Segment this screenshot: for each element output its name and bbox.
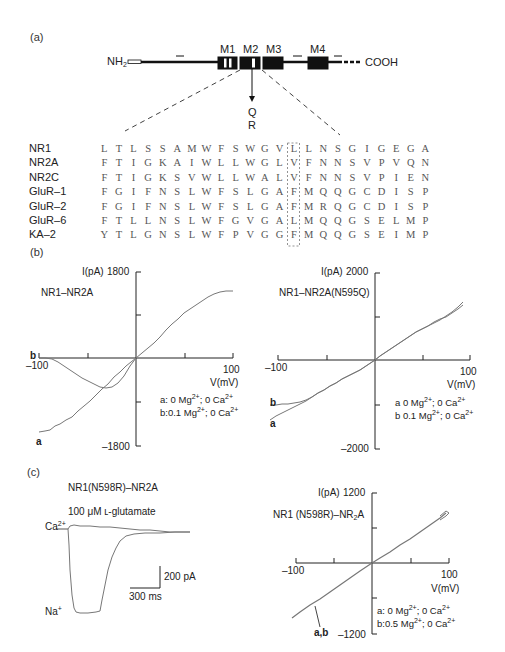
residue: G — [228, 214, 243, 228]
sequence-row: FGIFNSLWFSLGAFMRQGCDISP — [97, 200, 433, 214]
seq-name: GluR–2 — [29, 199, 66, 213]
residue: E — [403, 171, 418, 185]
residue: Q — [316, 228, 331, 242]
residue: V — [185, 171, 200, 185]
residue: G — [258, 142, 273, 156]
residue: G — [345, 228, 360, 242]
legend-b: b:0.1 Mg2+; 0 Ca2+ — [160, 406, 238, 418]
residue: G — [112, 200, 127, 214]
residue: S — [170, 200, 185, 214]
residue: N — [331, 156, 346, 170]
residue: G — [403, 142, 418, 156]
residue: S — [345, 156, 360, 170]
agonist-label: 100 μM ʟ-glutamate — [68, 506, 156, 517]
x-axis-label: V(mV) — [210, 377, 238, 388]
x-min-label: –100 — [282, 565, 304, 576]
residue: L — [214, 156, 229, 170]
iv-plot-nr1-nr2a-n595q — [270, 273, 470, 449]
residue: G — [258, 214, 273, 228]
site-label-r: R — [248, 119, 256, 131]
residue: S — [170, 228, 185, 242]
residue: C — [360, 185, 375, 199]
sequence-row: FTIGKSVWLLWALVFNNSVPIEN — [97, 171, 433, 185]
residue: A — [170, 142, 185, 156]
residue: W — [243, 171, 258, 185]
y-max-label: 1800 — [107, 266, 129, 277]
current-trace — [56, 525, 190, 613]
residue: L — [126, 228, 141, 242]
residue: M — [403, 228, 418, 242]
residue: Q — [316, 185, 331, 199]
residue: P — [418, 228, 433, 242]
residue: L — [126, 142, 141, 156]
figure-graphics — [0, 0, 505, 652]
x-min-label: –100 — [265, 362, 287, 373]
residue: G — [258, 156, 273, 170]
residue: L — [185, 185, 200, 199]
residue: S — [403, 185, 418, 199]
legend-b: b:0.5 Mg2+; 0 Ca2+ — [377, 617, 455, 629]
residue: M — [301, 228, 316, 242]
residue: A — [272, 214, 287, 228]
c-terminus-label: COOH — [365, 56, 398, 68]
y-max-label: 2000 — [346, 266, 368, 277]
scale-bar-y-label: 200 pA — [164, 571, 196, 582]
segment-m4-label: M4 — [310, 43, 325, 55]
residue: N — [155, 185, 170, 199]
residue: C — [360, 200, 375, 214]
residue: G — [258, 200, 273, 214]
residue: V — [243, 214, 258, 228]
residue: I — [185, 156, 200, 170]
residue: S — [228, 142, 243, 156]
x-max-label: 100 — [441, 569, 458, 580]
ca-trace-label: Ca2+ — [45, 520, 66, 532]
residue: L — [228, 156, 243, 170]
residue: Q — [331, 185, 346, 199]
legend-b: b 0.1 Mg2+; 0 Ca2+ — [395, 409, 473, 421]
residue: S — [360, 228, 375, 242]
residue: E — [374, 214, 389, 228]
residue: N — [316, 142, 331, 156]
residue: A — [418, 142, 433, 156]
residue: S — [360, 214, 375, 228]
residue: S — [345, 171, 360, 185]
residue: L — [287, 142, 302, 156]
residue: N — [316, 156, 331, 170]
residue: I — [126, 200, 141, 214]
residue: F — [97, 185, 112, 199]
residue: N — [418, 156, 433, 170]
residue: K — [155, 171, 170, 185]
residue: V — [389, 156, 404, 170]
residue: M — [185, 142, 200, 156]
residue: N — [155, 214, 170, 228]
residue: G — [258, 228, 273, 242]
residue: S — [141, 142, 156, 156]
curve-label-ab: a,b — [314, 627, 328, 638]
residue: F — [97, 171, 112, 185]
residue: F — [214, 200, 229, 214]
residue: G — [345, 185, 360, 199]
curve-label-b: b — [270, 397, 276, 408]
residue: I — [126, 185, 141, 199]
residue: S — [228, 185, 243, 199]
residue: G — [345, 214, 360, 228]
residue: T — [112, 142, 127, 156]
residue: V — [287, 171, 302, 185]
residue: I — [389, 228, 404, 242]
residue: I — [389, 171, 404, 185]
residue: L — [214, 171, 229, 185]
residue: F — [214, 185, 229, 199]
residue: W — [199, 214, 214, 228]
residue: I — [360, 142, 375, 156]
residue: P — [418, 200, 433, 214]
residue: A — [170, 156, 185, 170]
residue: F — [141, 185, 156, 199]
residue: L — [228, 171, 243, 185]
residue: V — [360, 171, 375, 185]
residue: S — [403, 200, 418, 214]
residue: G — [141, 171, 156, 185]
residue: V — [272, 142, 287, 156]
residue: A — [272, 200, 287, 214]
segment-m2-label: M2 — [243, 43, 258, 55]
residue: S — [170, 171, 185, 185]
